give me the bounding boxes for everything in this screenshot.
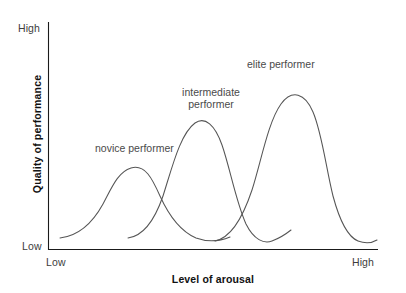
x-axis-tick-high: High	[352, 256, 374, 268]
curve-label-elite-performer: elite performer	[247, 58, 315, 70]
curve-label-intermediate-performer: intermediate performer	[178, 86, 244, 110]
chart-plot-area	[0, 0, 406, 293]
y-axis-title: Quality of performance	[31, 49, 43, 219]
chart-container: Quality of performance High Low Low High…	[0, 0, 406, 293]
curve-elite-performer	[215, 95, 377, 243]
curve-label-novice-performer: novice performer	[95, 142, 174, 154]
y-axis-tick-high: High	[18, 22, 40, 34]
curve-novice-performer	[60, 167, 230, 241]
x-axis-title: Level of arousal	[48, 273, 378, 285]
y-axis-tick-low: Low	[22, 240, 42, 252]
x-axis-tick-low: Low	[46, 256, 66, 268]
